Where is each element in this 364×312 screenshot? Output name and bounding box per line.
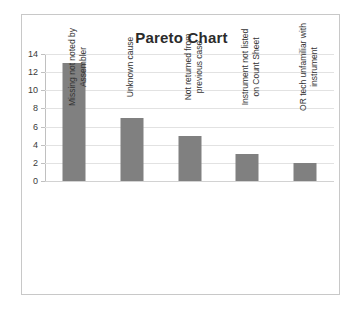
x-axis-label-line: OR tech unfamiliar with — [298, 15, 309, 119]
bar — [178, 136, 201, 181]
gridline — [45, 181, 334, 182]
chart-container: Pareto Chart 14121086420 Missing not not… — [21, 14, 340, 295]
bar — [294, 163, 317, 181]
x-axis-label-line: instrument — [309, 15, 320, 119]
y-tick-label: 10 — [28, 85, 38, 95]
y-tick-mark — [41, 54, 45, 55]
y-tick-mark — [41, 145, 45, 146]
bar — [120, 118, 143, 182]
y-tick-label: 4 — [33, 140, 38, 150]
y-tick-label: 8 — [33, 103, 38, 113]
x-axis-label-line: Instrument not listed — [240, 15, 251, 119]
y-tick-mark — [41, 127, 45, 128]
y-tick-mark — [41, 108, 45, 109]
plot-area: 14121086420 Missing not noted byAssemble… — [45, 54, 334, 181]
x-axis-label-line: Not returned from — [183, 15, 194, 119]
gridline — [45, 127, 334, 128]
y-tick-label: 14 — [28, 49, 38, 59]
x-axis-label-line: Unknown cause — [125, 15, 136, 119]
y-tick-mark — [41, 181, 45, 182]
x-axis-label: OR tech unfamiliar withinstrument — [253, 60, 357, 74]
y-tick-mark — [41, 90, 45, 91]
y-tick-label: 6 — [33, 122, 38, 132]
x-axis-label-line: Missing not noted by — [67, 15, 78, 119]
y-tick-label: 2 — [33, 158, 38, 168]
y-tick-mark — [41, 163, 45, 164]
y-tick-label: 0 — [33, 176, 38, 186]
bar — [236, 154, 259, 181]
